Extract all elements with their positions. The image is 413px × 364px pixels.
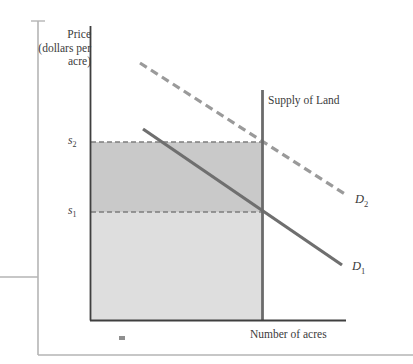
- demand-curve-d2-label-base: D: [355, 192, 364, 206]
- supply-of-land-label: Supply of Land: [268, 94, 340, 108]
- y-axis-label-line3: acre): [68, 55, 91, 67]
- y-tick-label-s1: s1: [68, 204, 76, 220]
- demand-curve-d1-label: D1: [352, 259, 365, 276]
- demand-curve-d1-label-base: D: [352, 259, 361, 273]
- shade-lower-rent: [91, 212, 262, 320]
- y-tick-label-s2: s2: [68, 134, 76, 150]
- x-axis-label: Number of acres: [250, 328, 327, 342]
- y-axis-label-line1: Price: [67, 28, 91, 40]
- demand-curve-d1-label-sub: 1: [361, 266, 365, 276]
- demand-curve-d2-label: D2: [355, 192, 368, 209]
- land-rent-chart-figure: Price (dollars per acre) Number of acres…: [0, 0, 413, 364]
- y-axis-label-line2: (dollars per: [38, 42, 91, 54]
- y-tick-label-s2-sub: 2: [72, 140, 76, 149]
- y-tick-label-s1-sub: 1: [72, 210, 76, 219]
- axis-tick-mark: [119, 336, 125, 340]
- y-axis-label: Price (dollars per acre): [9, 28, 91, 69]
- demand-curve-d2-label-sub: 2: [364, 199, 368, 209]
